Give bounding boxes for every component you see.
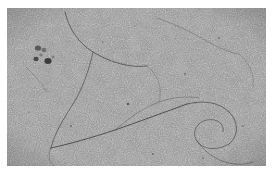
micrograph-canvas xyxy=(7,8,266,166)
micrograph-vignette xyxy=(7,8,266,166)
figure-root: Grainy gray electron micrograph showing … xyxy=(0,0,274,175)
micrograph-image xyxy=(7,8,266,166)
